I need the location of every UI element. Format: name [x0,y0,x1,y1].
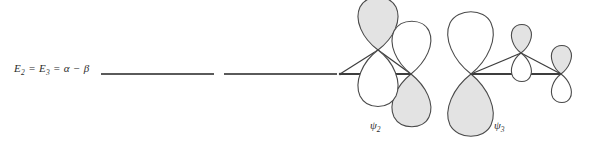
orbital-psi2 [339,0,431,127]
psi2-right-top-lobe-white [392,21,431,74]
figure-canvas: E2 = E3 = α − β [0,0,590,147]
psi3-right-bottom-lobe-white [551,74,571,103]
orbital-label-psi2: ψ2 [370,119,381,134]
psi3-left-top-lobe-white [448,12,494,74]
orbital-psi3 [448,12,572,137]
psi3-symbol: ψ [494,119,501,131]
orbital-label-psi3: ψ3 [494,119,505,134]
psi3-left-bottom-lobe-shaded [448,74,494,136]
psi3-apex-top-lobe-shaded [511,25,531,54]
psi2-subscript: 2 [377,125,381,134]
psi2-symbol: ψ [370,119,377,131]
psi3-right-top-lobe-shaded [551,46,571,75]
psi3-subscript: 3 [501,125,505,134]
psi2-node-vertex [339,73,341,75]
